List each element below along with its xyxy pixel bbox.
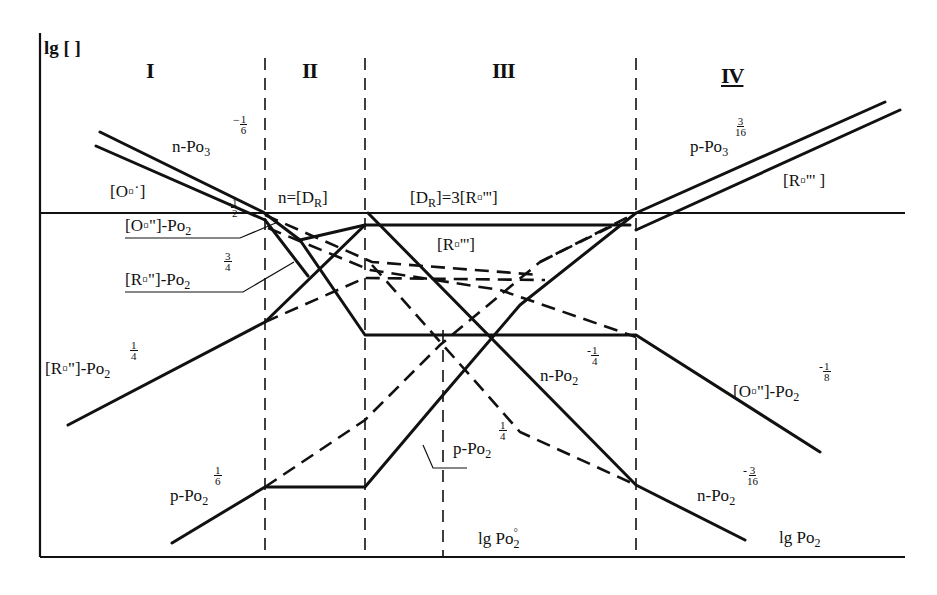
exp-den: 4	[500, 431, 506, 441]
label-text: n-Po	[172, 137, 204, 156]
neutrality-rest: ]=3[R▫''']	[436, 188, 498, 207]
exp-den: 16	[735, 127, 746, 137]
x-reference-label: lg Po2°	[478, 527, 518, 550]
solid-curves	[68, 102, 900, 543]
curve-p-region	[172, 102, 885, 543]
exponent: 16	[214, 465, 222, 487]
curve-r3-region4	[636, 110, 900, 230]
region-boundaries	[265, 58, 636, 557]
exp-den: 4	[225, 262, 231, 272]
neutrality-text: [D	[410, 188, 428, 207]
region-label-II: II	[302, 60, 317, 82]
dashed-curve-p-dash-region1	[265, 213, 636, 487]
label-sub: 2	[729, 494, 735, 508]
label-o-vac-single: [O▫˙]	[110, 183, 145, 200]
exp-sign: −	[233, 114, 240, 126]
label-p-po2-1-4: p-Po2 14	[453, 440, 491, 460]
label-r-vac-triple-plateau: [R▫''']	[437, 236, 475, 253]
label-region3-neutrality: [DR]=3[R▫''']	[410, 189, 498, 209]
exponent: 34	[224, 251, 232, 273]
label-p-po2-1-6: p-Po2 16	[170, 487, 208, 507]
exponent: -14	[587, 345, 599, 367]
label-sub: 3	[204, 145, 210, 159]
label-o-vac-double-neg-1-2: [O▫"]-Po2 -12	[125, 217, 191, 237]
label-sub: 2	[572, 374, 578, 388]
x-axis-label: lg Po2	[779, 529, 820, 549]
label-text: [R▫"]-Po	[45, 359, 104, 378]
label-sub: 2	[185, 224, 191, 238]
y-axis-label: lg [ ]	[44, 38, 81, 57]
exponent: 14	[130, 340, 138, 362]
label-text: [O▫"]-Po	[125, 216, 185, 235]
label-sub: 2	[104, 367, 110, 381]
ref-text: lg Po	[478, 529, 513, 548]
label-n-po3-neg-1-6: n-Po3 −16	[172, 138, 210, 158]
label-text: [O▫"]-Po	[733, 382, 793, 401]
defect-diagram	[0, 0, 937, 595]
exp-den: 16	[747, 476, 758, 486]
label-p-po3-3-16: p-Po3 316	[690, 138, 728, 158]
exp-den: 6	[241, 125, 247, 135]
exponent: -316	[743, 465, 758, 487]
exponent: 14	[499, 420, 507, 442]
exponent: −16	[233, 114, 247, 136]
label-r-vac-double-3-4: [R▫"]-Po2 34	[125, 271, 190, 291]
label-n-po2-neg-3-16: n-Po2 -316	[697, 487, 735, 507]
label-text: n-Po	[697, 486, 729, 505]
neutrality-text: n=[D	[278, 188, 314, 207]
label-sub: 2	[793, 390, 799, 404]
exponent: -12	[227, 197, 239, 219]
neutrality-close: ]	[322, 188, 328, 207]
region-label-IV: IV	[721, 65, 743, 87]
ref-sub: 2	[513, 537, 519, 551]
label-r-vac-double-1-4: [R▫"]-Po2 14	[45, 360, 110, 380]
dashed-curve-r2-dash	[265, 278, 545, 322]
label-sub: 2	[184, 278, 190, 292]
x-axis-sub: 2	[814, 536, 820, 550]
exp-den: 6	[215, 476, 221, 486]
label-text: p-Po	[170, 486, 202, 505]
exp-den: 4	[131, 351, 137, 361]
region-label-I: I	[146, 60, 154, 82]
x-axis-text: lg Po	[779, 528, 814, 547]
exp-den: 2	[232, 208, 238, 218]
axes	[40, 33, 905, 557]
neutrality-sub: R	[314, 196, 322, 210]
label-sub: 2	[202, 494, 208, 508]
y-axis-label-text: lg [ ]	[44, 37, 81, 58]
label-o-vac-double-neg-1-8: [O▫"]-Po2 -18	[733, 383, 799, 403]
dashed-curves	[265, 213, 636, 487]
label-text: p-Po	[690, 137, 722, 156]
label-n-po2-neg-1-4: n-Po2 -14	[540, 367, 578, 387]
label-text: p-Po	[453, 439, 485, 458]
label-text: [R▫"]-Po	[125, 270, 184, 289]
label-r-vac-triple-region4: [R▫''' ]	[783, 172, 825, 189]
label-sub: 3	[722, 145, 728, 159]
label-text: n-Po	[540, 366, 572, 385]
exponent: 316	[735, 116, 746, 138]
label-sub: 2	[485, 447, 491, 461]
region-label-III: III	[492, 60, 515, 82]
exponent: -18	[819, 361, 831, 383]
exp-den: 4	[592, 356, 598, 366]
ref-sup: °	[513, 526, 517, 538]
exp-den: 8	[824, 372, 830, 382]
neutrality-sub: R	[428, 196, 436, 210]
label-region2-neutrality: n=[DR]	[278, 189, 328, 209]
